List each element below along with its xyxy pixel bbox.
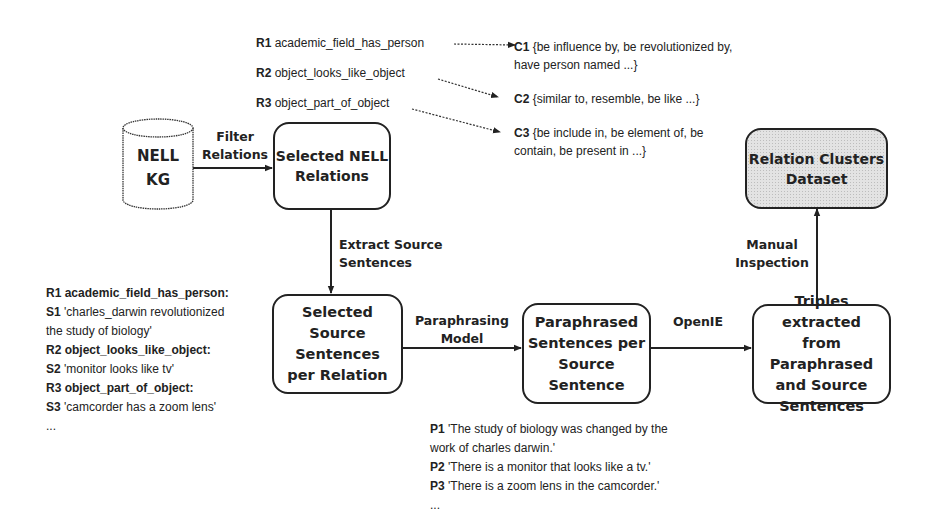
filter-relations-line1: Filter [200,128,270,146]
source-example-item: ... [46,417,229,436]
triples-line2: from Paraphrased [754,333,889,375]
extract-source-line1: Extract Source [339,236,442,254]
relation-clusters-line2: Dataset [749,169,884,189]
source-example-item: S1 'charles_darwin revolutionized [46,303,229,322]
manual-inspection-label: Manual Inspection [732,236,812,272]
selected-nell-relations-line1: Selected NELL [276,146,388,166]
cluster-id: C3 [514,126,529,140]
nell-kg-node: NELL KG [123,144,193,192]
relation-name: object_part_of_object [275,96,390,110]
paraphrased-line1: Paraphrased [528,312,645,333]
selected-nell-relations-node: Selected NELL Relations [273,122,391,210]
source-example-item: S2 'monitor looks like tv' [46,360,229,379]
paraphrased-sentences-node: Paraphrased Sentences per Source Sentenc… [522,303,651,404]
source-example-item: R1 academic_field_has_person: [46,284,229,303]
relation-id: R3 [256,96,271,110]
paraphrase-examples-list: P1 'The study of biology was changed by … [430,420,668,515]
selected-source-line1: Selected Source [274,302,401,344]
nell-kg-line1: NELL [123,144,193,168]
paraphrasing-model-label: Paraphrasing Model [412,312,512,348]
extract-source-line2: Sentences [339,254,442,272]
relation-name: object_looks_like_object [275,66,405,80]
paraphrase-example-item: ... [430,496,668,515]
cluster-text-cont: contain, be present in ...} [514,142,703,160]
cluster-c2: C2 {similar to, resemble, be like ...} [514,90,699,109]
paraphrasing-model-line1: Paraphrasing [412,312,512,330]
triples-line4: Sentences [754,396,889,417]
selected-source-line2: Sentences [274,344,401,365]
triples-extracted-node: Triples extracted from Paraphrased and S… [752,304,891,404]
cluster-id: C1 [514,40,529,54]
relation-id: R2 [256,66,271,80]
manual-inspection-line1: Manual [732,236,812,254]
paraphrase-example-item: P2 'There is a monitor that looks like a… [430,458,668,477]
triples-line1: Triples extracted [754,291,889,333]
selected-source-sentences-node: Selected Source Sentences per Relation [272,294,403,394]
nell-kg-line2: KG [123,168,193,192]
paraphrase-example-item: P3 'There is a zoom lens in the camcorde… [430,477,668,496]
paraphrase-example-item: work of charles darwin.' [430,439,668,458]
source-example-item: the study of biology' [46,322,229,341]
cluster-text: {be include in, be element of, be [533,126,704,140]
source-example-item: R2 object_looks_like_object: [46,341,229,360]
r2-to-c2-arrow [438,79,498,97]
cluster-c1: C1 {be influence by, be revolutionized b… [514,38,732,74]
manual-inspection-line2: Inspection [732,254,812,272]
relation-clusters-line1: Relation Clusters [749,149,884,169]
paraphrasing-model-line2: Model [412,330,512,348]
openie-label: OpenIE [663,313,733,331]
relation-r2: R2 object_looks_like_object [256,64,405,83]
paraphrased-line4: Sentence [528,375,645,396]
source-example-item: S3 'camcorder has a zoom lens' [46,398,229,417]
relation-r1: R1 academic_field_has_person [256,34,424,53]
cluster-c3: C3 {be include in, be element of, be con… [514,124,703,160]
r1-to-c1-arrow [454,44,515,45]
filter-relations-line2: Relations [200,146,270,164]
paraphrase-example-item: P1 'The study of biology was changed by … [430,420,668,439]
selected-source-line3: per Relation [274,365,401,386]
paraphrased-line2: Sentences per [528,333,645,354]
cluster-text: {be influence by, be revolutionized by, [533,40,733,54]
relation-id: R1 [256,36,271,50]
cluster-text: {similar to, resemble, be like ...} [533,92,700,106]
cluster-id: C2 [514,92,529,106]
selected-nell-relations-line2: Relations [276,166,388,186]
relation-r3: R3 object_part_of_object [256,94,389,113]
openie-line1: OpenIE [663,313,733,331]
relation-name: academic_field_has_person [275,36,424,50]
filter-relations-label: Filter Relations [200,128,270,164]
extract-source-label: Extract Source Sentences [339,236,442,272]
source-examples-list: R1 academic_field_has_person: S1 'charle… [46,284,229,436]
paraphrased-line3: Source [528,354,645,375]
r3-to-c3-arrow [412,109,500,132]
source-example-item: R3 object_part_of_object: [46,379,229,398]
triples-line3: and Source [754,375,889,396]
relation-clusters-dataset-node: Relation Clusters Dataset [745,128,888,209]
cluster-text-cont: have person named ...} [514,56,732,74]
